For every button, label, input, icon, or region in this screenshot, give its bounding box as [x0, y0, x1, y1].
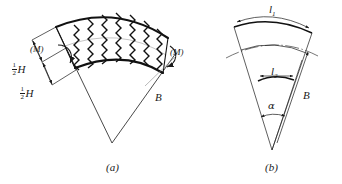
panel-a-half-depth-lower-label: 1 2 H	[20, 78, 33, 102]
panel-a-radius-leader	[145, 56, 176, 86]
half-depth-upper-variable: H	[18, 64, 26, 75]
panel-a-caption: (a)	[106, 162, 119, 173]
panel-b-outer-arc-label: l1	[269, 4, 276, 18]
panel-a-moment-right-label: (M)	[170, 48, 184, 57]
panel-a-dim-arrow-lower	[43, 63, 52, 84]
panel-a-zigzag-hatch	[74, 13, 162, 70]
panel-b-inner-arc-label: l2	[271, 66, 278, 80]
panel-b-radius-b-label: B	[303, 90, 310, 101]
panel-a-moment-left-label: (M)	[30, 45, 44, 54]
panel-a-inner-arc	[75, 60, 163, 73]
panel-b-geometry	[226, 17, 318, 150]
outer-arc-subscript: 1	[272, 10, 276, 18]
fraction-one-half-upper: 1 2	[12, 62, 17, 78]
panel-b-second-arc	[241, 45, 309, 54]
panel-a-half-depth-upper-label: 1 2 H	[12, 54, 25, 78]
panel-a-radius-b-label: B	[155, 92, 162, 103]
panel-b-outer-arc	[234, 22, 312, 33]
inner-arc-subscript: 2	[274, 72, 278, 80]
panel-b-angle-arc	[261, 114, 285, 117]
panel-b-angle-alpha-label: α	[268, 101, 275, 111]
fraction-one-half-lower: 1 2	[20, 86, 25, 102]
panel-b-caption: (b)	[265, 162, 278, 173]
half-depth-lower-variable: H	[26, 88, 34, 99]
panel-a-geometry	[32, 13, 176, 143]
panel-a-right-radial-edge	[112, 53, 176, 143]
panel-a-outer-arc	[56, 17, 168, 38]
panel-a-mid-arc	[62, 38, 166, 55]
figure-container: (M) (M) 1 2 H 1 2 H B (a) l1 l2 B α (b)	[0, 0, 342, 184]
panel-a-drawing	[0, 0, 342, 184]
